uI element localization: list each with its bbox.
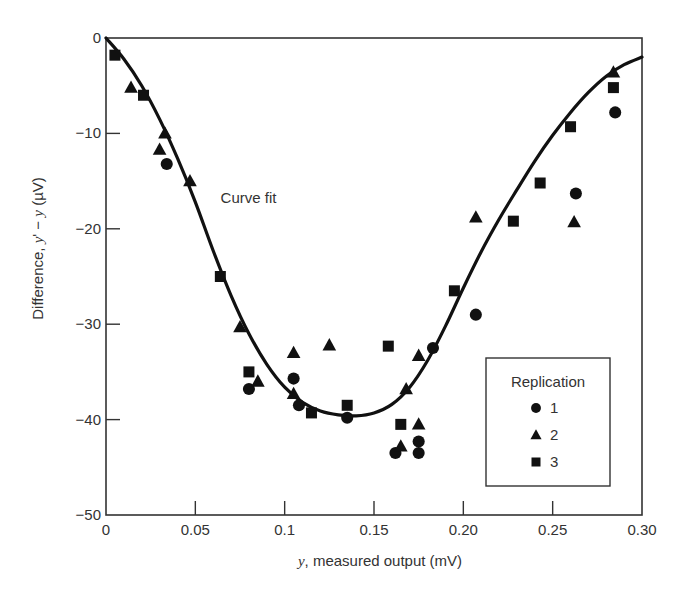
y-axis-title-var2: y: [30, 210, 46, 219]
x-axis-title: y, measured output (mV): [296, 552, 462, 569]
square-marker: [342, 400, 353, 411]
circle-marker: [161, 158, 173, 170]
triangle-marker: [323, 338, 337, 350]
chart: 00.050.10.150.200.250.30 0−10−20−30−40−5…: [0, 0, 688, 598]
x-tick-label: 0.25: [538, 521, 567, 538]
square-marker: [109, 50, 120, 61]
circle-marker: [570, 187, 582, 199]
y-axis: 0−10−20−30−40−50: [76, 29, 120, 523]
x-tick-label: 0.05: [181, 521, 210, 538]
triangle-marker: [412, 417, 426, 429]
circle-marker: [341, 412, 353, 424]
y-tick-label: 0: [93, 29, 101, 46]
square-marker: [535, 178, 546, 189]
circle-marker: [293, 399, 305, 411]
circle-marker: [413, 435, 425, 447]
legend-entry-label: 1: [550, 399, 558, 416]
square-marker: [508, 216, 519, 227]
y-axis-title-var1: y: [30, 236, 46, 245]
x-tick-label: 0.20: [449, 521, 478, 538]
square-marker: [215, 271, 226, 282]
y-axis-title: Difference, y' − y (µV): [29, 177, 46, 320]
x-tick-label: 0.15: [359, 521, 388, 538]
triangle-marker: [394, 439, 408, 451]
triangle-marker: [287, 346, 301, 358]
triangle-marker: [412, 349, 426, 361]
circle-marker: [427, 342, 439, 354]
triangle-marker: [469, 210, 483, 222]
square-marker: [565, 121, 576, 132]
y-tick-label: −20: [76, 220, 101, 237]
square-marker: [306, 407, 317, 418]
y-tick-label: −10: [76, 124, 101, 141]
square-marker: [532, 458, 541, 467]
y-axis-title-suffix: (µV): [29, 177, 46, 210]
legend: Replication 123: [486, 358, 610, 486]
triangle-marker: [567, 215, 581, 227]
circle-marker: [609, 106, 621, 118]
legend-entry-label: 3: [550, 453, 558, 470]
square-marker: [608, 82, 619, 93]
square-marker: [138, 90, 149, 101]
curve-fit-annotation: Curve fit: [221, 189, 278, 206]
y-axis-title-prefix: Difference,: [29, 243, 46, 319]
x-tick-label: 0: [102, 521, 110, 538]
y-tick-label: −50: [76, 506, 101, 523]
legend-title: Replication: [511, 373, 585, 390]
y-tick-label: −30: [76, 315, 101, 332]
x-tick-label: 0.1: [274, 521, 295, 538]
square-marker: [395, 419, 406, 430]
triangle-marker: [153, 142, 167, 154]
x-axis: 00.050.10.150.200.250.30: [102, 501, 657, 538]
square-marker: [449, 285, 460, 296]
x-axis-title-text: , measured output (mV): [305, 552, 463, 569]
x-axis-title-var: y: [296, 553, 305, 569]
square-marker: [383, 341, 394, 352]
circle-marker: [288, 373, 300, 385]
y-axis-title-mid: ' −: [29, 217, 46, 237]
y-tick-label: −40: [76, 411, 101, 428]
triangle-marker: [124, 80, 138, 92]
circle-marker: [531, 403, 541, 413]
x-tick-label: 0.30: [627, 521, 656, 538]
square-marker: [243, 366, 254, 377]
circle-marker: [470, 309, 482, 321]
triangle-marker: [158, 126, 172, 138]
circle-marker: [413, 447, 425, 459]
legend-entry-label: 2: [550, 426, 558, 443]
